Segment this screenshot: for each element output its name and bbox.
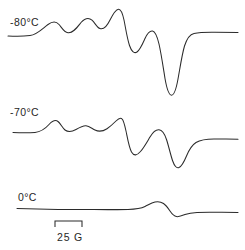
spectrum-group-zero: 0°C <box>17 191 238 217</box>
trace-label-zero: 0°C <box>18 191 37 203</box>
scale-bar-label: 25 G <box>57 231 83 243</box>
spectrum-line-zero <box>17 202 238 217</box>
spectrum-line-minus80 <box>8 9 238 95</box>
epr-spectra-figure: -80°C -70°C 0°C 25 G <box>0 0 245 250</box>
trace-label-minus70: -70°C <box>10 106 39 118</box>
spectrum-group-minus80: -80°C <box>8 9 238 95</box>
scale-bar-group: 25 G <box>55 221 83 243</box>
scale-bar-bracket <box>55 221 82 227</box>
trace-label-minus80: -80°C <box>10 16 39 28</box>
spectra-canvas: -80°C -70°C 0°C 25 G <box>0 0 245 250</box>
spectrum-group-minus70: -70°C <box>10 106 238 168</box>
spectrum-line-minus70 <box>13 118 238 167</box>
